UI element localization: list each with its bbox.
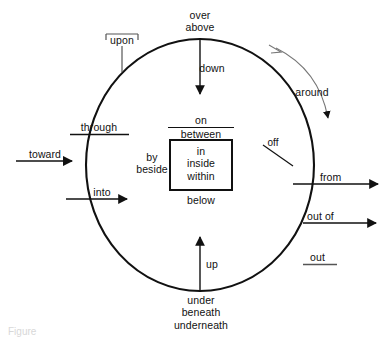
label-through: through: [81, 121, 117, 133]
label-inside: inside: [187, 157, 215, 169]
label-from: from: [320, 171, 341, 183]
label-down: down: [199, 62, 225, 74]
label-into: into: [93, 186, 110, 198]
label-above: above: [185, 21, 214, 33]
label-in-inside-within: in inside within: [187, 145, 215, 182]
label-underneath: underneath: [174, 319, 228, 331]
label-out-of: out of: [307, 210, 334, 222]
label-over-above: over above: [185, 9, 214, 34]
label-under: under: [174, 294, 228, 306]
label-between: between: [181, 128, 221, 140]
label-on: on: [195, 114, 207, 126]
preposition-diagram: over above upon down around through towa…: [0, 0, 385, 342]
label-under-beneath-underneath: under beneath underneath: [174, 294, 228, 331]
label-toward: toward: [29, 148, 61, 160]
label-beside: beside: [136, 163, 168, 175]
label-out: out: [310, 251, 325, 263]
label-within: within: [187, 170, 215, 182]
label-below: below: [187, 194, 215, 206]
around-arrowhead-start: [269, 45, 281, 53]
label-by: by: [136, 151, 168, 163]
label-off: off: [267, 137, 278, 149]
label-upon: upon: [110, 34, 134, 46]
figure-caption: Figure: [8, 326, 36, 337]
label-beneath: beneath: [174, 306, 228, 318]
label-around: around: [295, 86, 328, 98]
label-by-beside: by beside: [136, 151, 168, 176]
label-up: up: [206, 258, 218, 270]
label-over: over: [185, 9, 214, 21]
label-in: in: [187, 145, 215, 157]
